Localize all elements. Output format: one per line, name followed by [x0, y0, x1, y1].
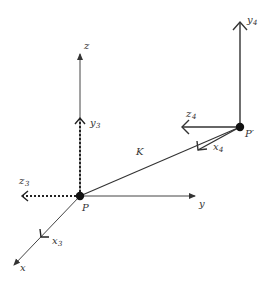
connector-k: [80, 127, 240, 196]
x-axis: [14, 196, 80, 265]
label-k: K: [135, 146, 144, 157]
frame3-z3-axis: [22, 191, 80, 201]
svg-text:y: y: [246, 14, 253, 25]
svg-text:y: y: [89, 117, 96, 128]
svg-text:3: 3: [25, 180, 30, 188]
label-y: y: [198, 198, 205, 209]
label-p-prime: P′: [244, 128, 255, 139]
svg-text:z: z: [18, 175, 25, 186]
point-p-prime: [236, 123, 244, 131]
svg-text:4: 4: [218, 146, 223, 154]
frame4-y4-axis: [233, 22, 247, 127]
label-x4: x 4: [213, 141, 223, 154]
label-z4: z 4: [185, 108, 196, 121]
svg-text:4: 4: [252, 19, 257, 27]
label-p: P: [81, 202, 89, 213]
svg-text:3: 3: [96, 122, 101, 130]
frame-diagram: z y x P P′ K y 3 z 3 x 3 y 4 z 4 x 4: [0, 0, 271, 285]
label-y4: y 4: [246, 14, 257, 27]
point-p: [76, 192, 84, 200]
label-y3: y 3: [89, 117, 101, 130]
label-z: z: [83, 40, 90, 51]
label-z3: z 3: [18, 175, 30, 188]
svg-text:3: 3: [58, 240, 63, 248]
label-x3: x 3: [52, 235, 63, 248]
label-x: x: [20, 262, 26, 273]
svg-text:z: z: [185, 108, 192, 119]
svg-text:4: 4: [191, 113, 196, 121]
